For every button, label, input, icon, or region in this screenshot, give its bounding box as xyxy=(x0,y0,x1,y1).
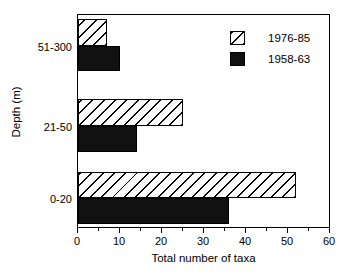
x-tick-50 xyxy=(287,228,288,233)
x-tick-minor-35 xyxy=(224,228,225,231)
x-tick-60 xyxy=(329,228,330,233)
x-tick-label-50: 50 xyxy=(272,236,302,247)
bar-1958-63-51-300 xyxy=(78,46,120,71)
legend-item-1976-85: 1976-85 xyxy=(230,29,325,50)
legend-swatch-hatched-icon xyxy=(230,31,245,45)
chart-legend: 1976-85 1958-63 xyxy=(230,29,325,71)
bar-1976-85-21-50 xyxy=(78,99,183,126)
x-tick-label-0: 0 xyxy=(62,236,92,247)
x-axis-title: Total number of taxa xyxy=(77,252,330,264)
x-tick-10 xyxy=(119,228,120,233)
legend-item-1958-63: 1958-63 xyxy=(230,50,325,71)
x-tick-label-60: 60 xyxy=(314,236,344,247)
legend-label-1976-85: 1976-85 xyxy=(268,31,310,45)
x-tick-30 xyxy=(203,228,204,233)
y-axis-title: Depth (m) xyxy=(10,52,22,172)
bar-1958-63-21-50 xyxy=(78,126,137,152)
x-tick-20 xyxy=(161,228,162,233)
plot-area: 1976-85 1958-63 xyxy=(77,14,330,228)
x-tick-label-10: 10 xyxy=(104,236,134,247)
x-tick-minor-5 xyxy=(98,228,99,231)
legend-label-1958-63: 1958-63 xyxy=(268,52,310,66)
x-tick-minor-25 xyxy=(182,228,183,231)
x-tick-minor-15 xyxy=(140,228,141,231)
x-tick-label-30: 30 xyxy=(188,236,218,247)
chart-figure: 1976-85 1958-63 0 10 20 30 40 50 60 51-3… xyxy=(0,0,355,276)
y-tick-label-0-20: 0-20 xyxy=(6,194,72,205)
x-tick-label-40: 40 xyxy=(230,236,260,247)
x-tick-40 xyxy=(245,228,246,233)
x-tick-minor-45 xyxy=(266,228,267,231)
bar-1976-85-0-20 xyxy=(78,172,296,198)
x-tick-0 xyxy=(77,228,78,233)
legend-swatch-solid-icon xyxy=(230,52,245,66)
bar-1976-85-51-300 xyxy=(78,19,107,46)
bar-1958-63-0-20 xyxy=(78,198,229,224)
x-tick-label-20: 20 xyxy=(146,236,176,247)
x-tick-minor-55 xyxy=(308,228,309,231)
